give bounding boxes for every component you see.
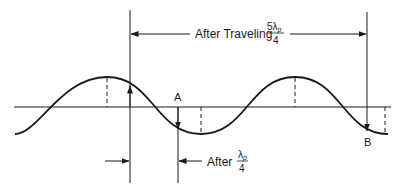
- bottom-annotation-prefix: After: [207, 155, 232, 169]
- top-fraction-denominator: 4: [273, 35, 279, 46]
- top-annotation-prefix: After Traveling: [195, 27, 272, 41]
- sine-wave: [15, 77, 388, 134]
- bottom-fraction-numerator: λp: [238, 149, 247, 162]
- bottom-fraction-denominator: 4: [239, 163, 245, 174]
- point-a-label: A: [174, 91, 182, 103]
- wave-diagram: After Traveling 5λp 4 After λp 4 A B: [0, 0, 402, 195]
- point-b-label: B: [364, 136, 371, 148]
